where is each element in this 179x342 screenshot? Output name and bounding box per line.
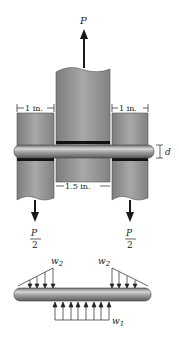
dim-middle-label: 1.5 in. bbox=[65, 182, 91, 191]
left-distributed-load-w2 bbox=[18, 268, 55, 288]
left-w2-label: w2 bbox=[51, 256, 64, 268]
load-p-label: P bbox=[79, 15, 87, 26]
left-reaction-num: P bbox=[30, 228, 38, 238]
right-w2-label: w2 bbox=[98, 256, 111, 268]
dim-pin-label: d bbox=[165, 147, 171, 157]
dim-right-label: 1 in. bbox=[119, 104, 137, 113]
shear-pin-diagram: P 1 in. 1 in. 1.5 in. d P bbox=[0, 0, 179, 342]
left-reaction-den: 2 bbox=[32, 240, 38, 250]
load-p-arrow bbox=[80, 29, 88, 68]
uniform-load-w1 bbox=[53, 302, 111, 320]
right-reaction-arrow bbox=[126, 200, 134, 222]
right-reaction-num: P bbox=[125, 228, 133, 238]
right-reaction-den: 2 bbox=[127, 240, 133, 250]
left-reaction-arrow bbox=[31, 200, 39, 222]
dim-pin bbox=[156, 145, 163, 158]
dim-left-label: 1 in. bbox=[25, 104, 43, 113]
w1-label: w1 bbox=[112, 316, 124, 328]
fbd-pin bbox=[14, 288, 151, 301]
right-distributed-load-w2 bbox=[110, 268, 148, 288]
pin bbox=[14, 145, 154, 158]
center-plate bbox=[56, 67, 110, 182]
